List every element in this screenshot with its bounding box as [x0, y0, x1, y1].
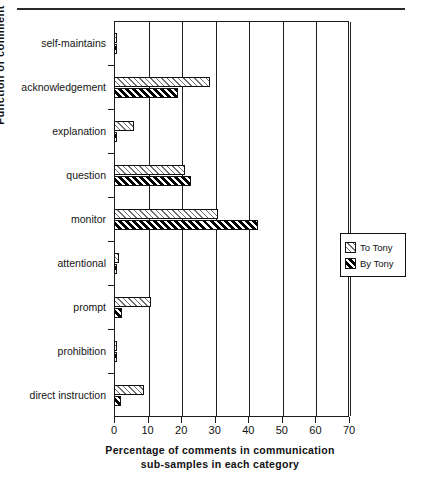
x-axis-title: Percentage of comments in communication …: [60, 443, 380, 471]
legend-swatch-to-tony-icon: [345, 242, 356, 253]
x-ticklabel-70: 70: [334, 424, 364, 436]
chart-legend: To Tony By Tony: [340, 233, 406, 277]
x-tick-70: [349, 417, 350, 423]
x-ticklabel-30: 30: [200, 424, 230, 436]
legend-label-to-tony: To Tony: [360, 242, 393, 253]
y-ticklabel-prompt: prompt: [73, 301, 106, 313]
y-ticklabel-question: question: [66, 169, 106, 181]
gridline-x-20: [182, 22, 183, 416]
y-ticklabel-explanation: explanation: [52, 125, 106, 137]
x-tick-60: [315, 417, 316, 423]
x-ticklabel-10: 10: [133, 424, 163, 436]
plot-area: [114, 21, 349, 417]
x-tick-40: [248, 417, 249, 423]
header-rule: [17, 8, 405, 10]
gridline-x-50: [283, 22, 284, 416]
legend-label-by-tony: By Tony: [360, 258, 394, 269]
x-ticklabel-20: 20: [166, 424, 196, 436]
x-tick-50: [282, 417, 283, 423]
gridline-x-60: [316, 22, 317, 416]
x-tick-0: [114, 417, 115, 423]
gridline-x-40: [249, 22, 250, 416]
x-ticklabel-0: 0: [99, 424, 129, 436]
gridline-x-70: [350, 22, 351, 416]
x-ticklabel-60: 60: [300, 424, 330, 436]
y-ticklabel-direct-instruction: direct instruction: [30, 389, 106, 401]
x-tick-20: [181, 417, 182, 423]
y-ticklabel-monitor: monitor: [71, 213, 106, 225]
y-ticklabel-self-maintains: self-maintains: [41, 37, 106, 49]
x-ticklabel-40: 40: [233, 424, 263, 436]
y-ticklabel-attentional: attentional: [58, 257, 106, 269]
legend-swatch-by-tony-icon: [345, 258, 356, 269]
legend-item-to-tony: To Tony: [345, 239, 401, 255]
x-axis-title-line1: Percentage of comments in communication: [60, 443, 380, 457]
y-ticklabel-acknowledgement: acknowledgement: [21, 81, 106, 93]
gridline-x-30: [216, 22, 217, 416]
y-axis-title: Function of comment: [0, 0, 6, 150]
legend-item-by-tony: By Tony: [345, 255, 401, 271]
y-ticklabel-prohibition: prohibition: [58, 345, 106, 357]
gridline-x-10: [149, 22, 150, 416]
x-tick-30: [215, 417, 216, 423]
x-tick-10: [148, 417, 149, 423]
x-ticklabel-50: 50: [267, 424, 297, 436]
x-axis-title-line2: sub-samples in each category: [60, 457, 380, 471]
